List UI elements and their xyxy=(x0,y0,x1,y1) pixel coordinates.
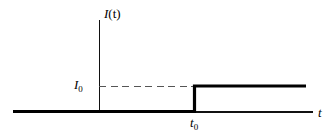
step-function-figure: I(t) I0 t0 t xyxy=(0,0,332,138)
x-tick-label-subscript: 0 xyxy=(194,122,199,132)
y-axis-label-arg: (t) xyxy=(108,6,120,21)
x-tick-label-t0: t0 xyxy=(190,116,198,132)
y-level-label-subscript: 0 xyxy=(78,84,83,94)
plot-canvas xyxy=(0,0,332,138)
y-level-label-i0: I0 xyxy=(74,78,83,94)
step-function-curve xyxy=(13,86,306,112)
x-axis-label: t xyxy=(318,106,322,119)
y-axis-label: I(t) xyxy=(104,7,121,20)
